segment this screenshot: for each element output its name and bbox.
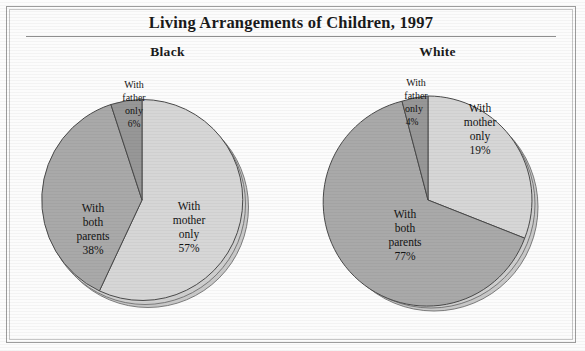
figure-page: Living Arrangements of Children, 1997 Bl… — [0, 0, 585, 351]
figure-title: Living Arrangements of Children, 1997 — [14, 13, 568, 33]
title-divider — [26, 36, 556, 37]
panel-header-white: White — [320, 44, 555, 60]
panel-header-black: Black — [40, 44, 295, 60]
